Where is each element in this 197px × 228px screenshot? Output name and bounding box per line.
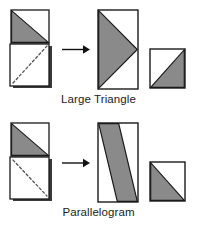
arrow-head [83, 159, 90, 167]
folded-paper-large-triangle [10, 10, 52, 88]
unfolded-large-triangle [98, 10, 138, 89]
arrow-head [83, 45, 90, 53]
unfolded-small-square [150, 162, 185, 201]
transformation-arrow [62, 45, 90, 53]
unfolded-small-square [150, 49, 185, 88]
paper-folding-figure: Large Triangle [0, 0, 197, 228]
caption-parallelogram: Parallelogram [0, 206, 197, 218]
unfolded-parallelogram [98, 123, 138, 202]
folded-paper-parallelogram [10, 123, 52, 201]
caption-large-triangle: Large Triangle [0, 93, 197, 105]
transformation-arrow [62, 159, 90, 167]
